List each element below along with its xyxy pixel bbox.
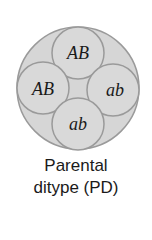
caption-line1: Parental [0, 156, 152, 176]
spore-label-top: AB [66, 43, 89, 63]
spore-label-left: AB [31, 79, 54, 99]
spore-label-right: ab [106, 80, 124, 100]
spore-label-bottom: ab [69, 114, 87, 134]
caption-line2: ditype (PD) [0, 178, 152, 198]
